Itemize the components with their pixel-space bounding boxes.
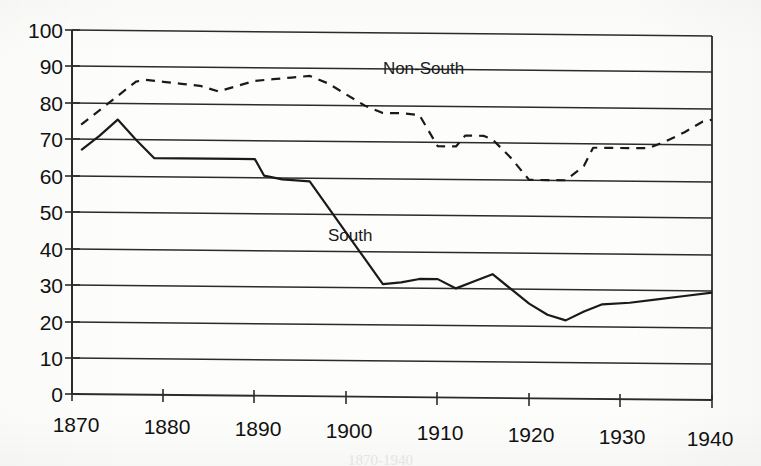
gridline-20 xyxy=(72,322,712,328)
gridline-60 xyxy=(72,176,712,182)
x-tick-label: 1900 xyxy=(326,419,373,442)
gridline-70 xyxy=(72,139,712,145)
x-tick-label: 1880 xyxy=(144,415,191,438)
series-annotation-south: South xyxy=(328,226,372,245)
y-tick-label: 0 xyxy=(51,383,63,406)
y-axis-tick-labels: 100 90 80 70 60 50 40 30 20 10 0 xyxy=(28,19,63,406)
y-tick-label: 80 xyxy=(40,92,63,115)
series-line-non-south xyxy=(81,76,712,180)
gridline-30 xyxy=(72,285,712,291)
gridline-80 xyxy=(72,103,712,109)
gridline-100 xyxy=(72,30,712,36)
gridline-10 xyxy=(72,358,712,364)
y-tick-label: 60 xyxy=(40,165,63,188)
x-axis-tick-labels: 1870 1880 1890 1900 1910 1920 1930 1940 xyxy=(53,413,734,450)
series-annotation-non-south: Non-South xyxy=(383,59,464,78)
x-tick-label: 1940 xyxy=(687,427,734,450)
y-tick-label: 30 xyxy=(40,274,63,297)
y-tick-label: 10 xyxy=(40,347,63,370)
gridline-40 xyxy=(72,249,712,255)
line-chart: 100 90 80 70 60 50 40 30 20 10 0 1870 18… xyxy=(0,0,761,466)
figure-caption-ghost: 1870-1940 xyxy=(0,452,761,466)
plot-area: Non-South South xyxy=(65,30,712,408)
y-tick-label: 90 xyxy=(40,55,63,78)
gridline-50 xyxy=(72,212,712,218)
y-tick-label: 100 xyxy=(28,19,63,42)
chart-figure: 100 90 80 70 60 50 40 30 20 10 0 1870 18… xyxy=(0,0,761,466)
y-tick-label: 70 xyxy=(40,128,63,151)
y-tick-label: 20 xyxy=(40,311,63,334)
x-tick-label: 1930 xyxy=(599,425,646,448)
x-axis-line xyxy=(72,394,712,400)
x-tick-label: 1920 xyxy=(508,423,555,446)
x-tick-label: 1890 xyxy=(235,417,282,440)
horizontal-gridlines xyxy=(72,30,712,364)
y-tick-label: 40 xyxy=(40,238,63,261)
x-tick-label: 1870 xyxy=(53,413,100,436)
x-tick-label: 1910 xyxy=(417,421,464,444)
y-tick-label: 50 xyxy=(40,201,63,224)
x-axis-ticks xyxy=(72,388,712,408)
